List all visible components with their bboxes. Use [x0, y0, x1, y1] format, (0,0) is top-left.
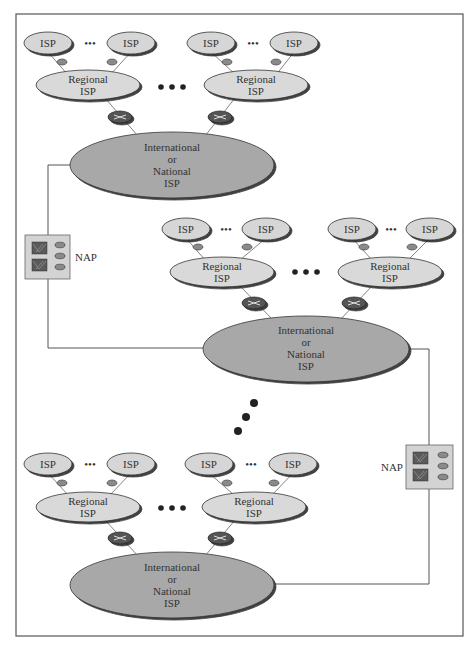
- nap-label: NAP: [75, 251, 97, 263]
- small-router-icon: [193, 244, 203, 250]
- svg-text:Regional: Regional: [68, 73, 108, 85]
- ellipsis-vertical-icon: [234, 399, 258, 435]
- svg-text:ISP: ISP: [422, 223, 438, 235]
- small-router-icon: [438, 463, 448, 469]
- svg-text:ISP: ISP: [123, 37, 139, 49]
- svg-text:International: International: [144, 561, 200, 573]
- svg-text:ISP: ISP: [178, 223, 194, 235]
- tier-bottom: ISP ••• ISP ISP ••• ISP RegionalISP Regi…: [24, 453, 317, 618]
- isp-node: ISP: [269, 453, 317, 475]
- small-router-icon: [438, 452, 448, 458]
- tier-top: ISP ••• ISP ISP ••• ISP RegionalISP Regi…: [24, 32, 318, 198]
- national-isp-node: International or National ISP: [70, 132, 274, 198]
- ellipsis: •••: [385, 223, 397, 235]
- regional-isp-node: RegionalISP: [36, 492, 140, 522]
- svg-text:ISP: ISP: [203, 37, 219, 49]
- svg-text:Regional: Regional: [370, 260, 410, 272]
- isp-node: ISP: [187, 32, 235, 54]
- svg-text:or: or: [167, 573, 177, 585]
- router-icon: [208, 532, 232, 544]
- small-router-icon: [107, 59, 117, 65]
- svg-text:ISP: ISP: [298, 360, 314, 372]
- small-router-icon: [55, 242, 65, 248]
- svg-text:ISP: ISP: [382, 272, 398, 284]
- isp-node: ISP: [328, 218, 376, 240]
- regional-isp-node: RegionalISP: [204, 70, 308, 100]
- svg-text:ISP: ISP: [80, 85, 96, 97]
- switch-icon: [413, 452, 428, 464]
- small-router-icon: [107, 480, 117, 486]
- isp-node: ISP: [406, 218, 454, 240]
- svg-text:National: National: [153, 585, 191, 597]
- isp-node: ISP: [24, 453, 72, 475]
- svg-text:National: National: [153, 165, 191, 177]
- small-router-icon: [271, 59, 281, 65]
- ellipsis: •••: [84, 37, 96, 49]
- regional-isp-node: RegionalISP: [202, 492, 306, 522]
- nap-right: NAP: [381, 445, 453, 489]
- switch-icon: [32, 242, 47, 254]
- regional-isp-node: RegionalISP: [36, 70, 140, 100]
- national-isp-node: International or National ISP: [203, 316, 409, 382]
- isp-node: ISP: [107, 32, 155, 54]
- svg-text:ISP: ISP: [123, 458, 139, 470]
- tier-middle: ISP ••• ISP ISP ••• ISP RegionalISP Regi…: [162, 218, 454, 382]
- svg-text:ISP: ISP: [80, 507, 96, 519]
- small-router-icon: [359, 244, 369, 250]
- nap-label: NAP: [381, 461, 403, 473]
- isp-node: ISP: [107, 453, 155, 475]
- svg-text:or: or: [167, 153, 177, 165]
- svg-text:National: National: [287, 348, 325, 360]
- small-router-icon: [407, 244, 417, 250]
- svg-text:Regional: Regional: [68, 495, 108, 507]
- router-icon: [342, 297, 366, 309]
- ellipsis-horizontal-icon: [158, 505, 186, 511]
- switch-icon: [32, 259, 47, 271]
- svg-text:ISP: ISP: [258, 223, 274, 235]
- isp-hierarchy-diagram: ISP ••• ISP ISP ••• ISP RegionalISP Regi…: [0, 0, 476, 649]
- ellipsis-horizontal-icon: [292, 269, 320, 275]
- router-icon: [208, 111, 232, 123]
- regional-isp-node: RegionalISP: [170, 257, 274, 287]
- small-router-icon: [57, 480, 67, 486]
- svg-text:ISP: ISP: [40, 37, 56, 49]
- isp-node: ISP: [162, 218, 210, 240]
- svg-text:Regional: Regional: [234, 495, 274, 507]
- svg-text:or: or: [301, 336, 311, 348]
- small-router-icon: [242, 244, 252, 250]
- ellipsis: •••: [220, 223, 232, 235]
- svg-text:ISP: ISP: [201, 458, 217, 470]
- ellipsis: •••: [247, 37, 259, 49]
- svg-text:International: International: [144, 141, 200, 153]
- nap-left: NAP: [25, 235, 97, 279]
- svg-text:International: International: [278, 324, 334, 336]
- svg-text:ISP: ISP: [164, 177, 180, 189]
- regional-isp-node: RegionalISP: [338, 257, 442, 287]
- small-router-icon: [222, 59, 232, 65]
- svg-text:Regional: Regional: [202, 260, 242, 272]
- svg-text:ISP: ISP: [285, 458, 301, 470]
- national-isp-node: International or National ISP: [70, 552, 274, 618]
- ellipsis: •••: [245, 458, 257, 470]
- svg-text:Regional: Regional: [236, 73, 276, 85]
- svg-text:ISP: ISP: [286, 37, 302, 49]
- small-router-icon: [57, 59, 67, 65]
- small-router-icon: [222, 480, 232, 486]
- small-router-icon: [55, 264, 65, 270]
- switch-icon: [413, 469, 428, 481]
- svg-text:ISP: ISP: [40, 458, 56, 470]
- router-icon: [108, 111, 132, 123]
- isp-node: ISP: [270, 32, 318, 54]
- small-router-icon: [55, 253, 65, 259]
- svg-text:ISP: ISP: [214, 272, 230, 284]
- svg-text:ISP: ISP: [248, 85, 264, 97]
- isp-node: ISP: [185, 453, 233, 475]
- router-icon: [108, 532, 132, 544]
- small-router-icon: [438, 474, 448, 480]
- ellipsis-horizontal-icon: [158, 84, 186, 90]
- router-icon: [242, 297, 266, 309]
- ellipsis: •••: [84, 458, 96, 470]
- isp-node: ISP: [24, 32, 72, 54]
- svg-text:ISP: ISP: [164, 597, 180, 609]
- svg-text:ISP: ISP: [344, 223, 360, 235]
